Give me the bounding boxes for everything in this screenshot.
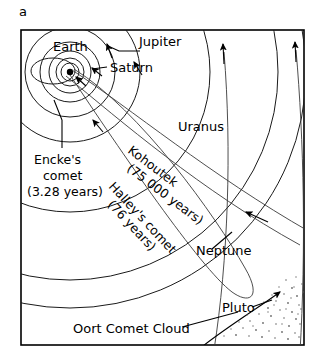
orbit-kohoutek-in <box>66 76 300 245</box>
label-uranus: Uranus <box>178 119 224 134</box>
label-pluto: Pluto <box>222 300 255 315</box>
label-enckes-line2: comet <box>43 168 82 183</box>
kohoutek-direction-arrow <box>246 212 268 222</box>
diagram-canvas: Earth Jupiter Saturn Uranus Neptune Plut… <box>0 0 319 362</box>
label-enckes-line3: (3.28 years) <box>27 184 103 199</box>
label-neptune: Neptune <box>196 243 252 258</box>
comet-arc-outer-2 <box>296 50 303 352</box>
label-enckes-line1: Encke's <box>34 152 81 167</box>
label-saturn: Saturn <box>110 60 153 75</box>
solar-system-figure: a <box>0 0 319 362</box>
comet-arc-2-arrow <box>295 42 296 62</box>
label-jupiter: Jupiter <box>138 34 182 49</box>
label-oort-comet-cloud: Oort Comet Cloud <box>73 321 190 336</box>
comet-arc-1-arrow <box>223 44 224 64</box>
label-earth: Earth <box>53 39 88 54</box>
leader-pluto <box>252 300 272 307</box>
